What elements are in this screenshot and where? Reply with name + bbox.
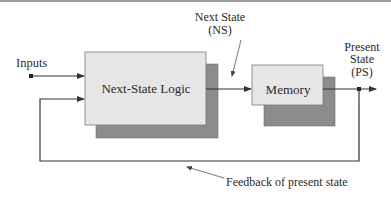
present-state-abbrev: (PS) — [351, 65, 372, 79]
memory-block: Memory — [252, 65, 335, 126]
next-state-pointer — [232, 40, 241, 76]
next-state-logic-label: Next-State Logic — [101, 81, 190, 96]
next-state-label: Next State — [195, 10, 245, 24]
feedback-label: Feedback of present state — [226, 175, 348, 189]
top-rule — [0, 0, 391, 2]
state-machine-diagram: Next-State Logic Memory Inputs Next Stat… — [0, 0, 391, 200]
feedback-pointer — [187, 167, 224, 178]
next-state-logic-block: Next-State Logic — [85, 52, 218, 138]
memory-label: Memory — [266, 82, 311, 97]
inputs-terminal-icon — [29, 74, 33, 78]
present-state-label-line2: State — [350, 52, 374, 66]
next-state-abbrev: (NS) — [208, 23, 231, 37]
inputs-label: Inputs — [16, 56, 47, 70]
